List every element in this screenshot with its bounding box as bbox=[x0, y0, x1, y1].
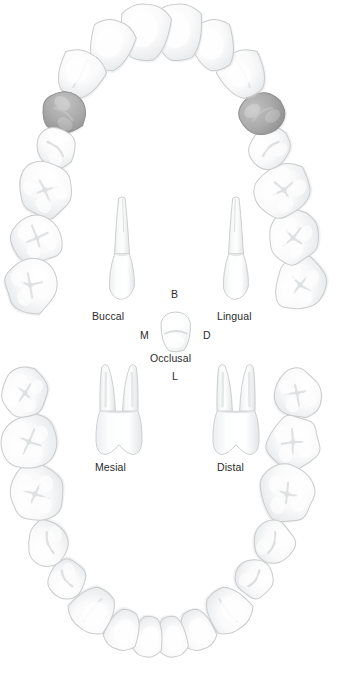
label-distal-view: Distal bbox=[217, 461, 244, 473]
tooth-lower-right-first-molar[interactable] bbox=[257, 462, 317, 525]
orientation-label-distal: D bbox=[203, 329, 211, 341]
dental-diagram-svg bbox=[0, 0, 346, 676]
label-buccal-view: Buccal bbox=[92, 310, 124, 322]
label-occlusal-view: Occlusal bbox=[150, 352, 191, 364]
label-lingual-view: Lingual bbox=[217, 310, 252, 322]
central-view-buccal[interactable] bbox=[109, 197, 134, 300]
orientation-label-mesial: M bbox=[140, 329, 149, 341]
tooth-lower-left-third-molar[interactable] bbox=[0, 359, 56, 424]
label-mesial-view: Mesial bbox=[95, 461, 126, 473]
tooth-lower-left-first-molar[interactable] bbox=[8, 460, 66, 522]
central-view-lingual[interactable] bbox=[223, 197, 248, 300]
central-view-distal[interactable] bbox=[213, 365, 259, 455]
orientation-label-lingual: L bbox=[172, 370, 178, 382]
central-view-occlusal[interactable] bbox=[161, 312, 190, 352]
mandibular-arch bbox=[0, 359, 329, 659]
dental-anatomy-chart: Buccal Lingual Mesial Distal Occlusal B … bbox=[0, 0, 346, 676]
central-tooth-views bbox=[96, 197, 259, 455]
central-view-mesial[interactable] bbox=[96, 365, 142, 455]
tooth-upper-left-third-molar[interactable] bbox=[0, 252, 66, 323]
tooth-lower-left-second-molar[interactable] bbox=[0, 406, 64, 474]
orientation-label-buccal: B bbox=[171, 288, 178, 300]
maxillary-arch bbox=[0, 2, 336, 323]
